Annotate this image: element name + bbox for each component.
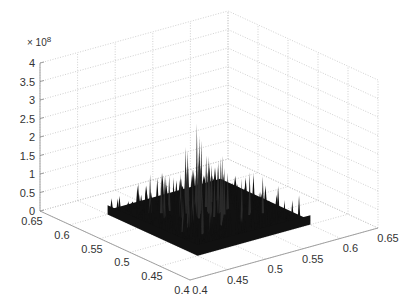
y-tick-label: 0.6	[54, 229, 69, 241]
y-tick-label: 0.45	[141, 270, 162, 282]
z-tick-label: 2	[29, 131, 35, 143]
x-tick-label: 0.45	[227, 274, 248, 286]
x-tick-label: 0.5	[268, 263, 283, 275]
surface-plot: 00.511.522.533.54 0.40.450.50.550.60.65 …	[0, 0, 420, 306]
x-tick-label: 0.55	[302, 253, 323, 265]
surface-mesh	[108, 124, 311, 256]
z-tick-label: 4	[29, 57, 35, 69]
z-tick-label: 3	[29, 94, 35, 106]
z-tick-label: 3.5	[20, 76, 35, 88]
y-tick-label: 0.65	[21, 215, 42, 227]
x-tick-label: 0.6	[343, 242, 358, 254]
z-multiplier-label: × 108	[27, 35, 52, 48]
y-tick-label: 0.5	[114, 256, 129, 268]
x-tick-label: 0.4	[192, 284, 207, 296]
z-tick-label: 1	[29, 168, 35, 180]
y-tick-label: 0.4	[174, 284, 189, 296]
z-tick-label: 0.5	[20, 187, 35, 199]
x-tick-label: 0.65	[377, 232, 398, 244]
z-tick-label: 2.5	[20, 113, 35, 125]
y-tick-label: 0.55	[81, 243, 102, 255]
z-tick-label: 1.5	[20, 150, 35, 162]
